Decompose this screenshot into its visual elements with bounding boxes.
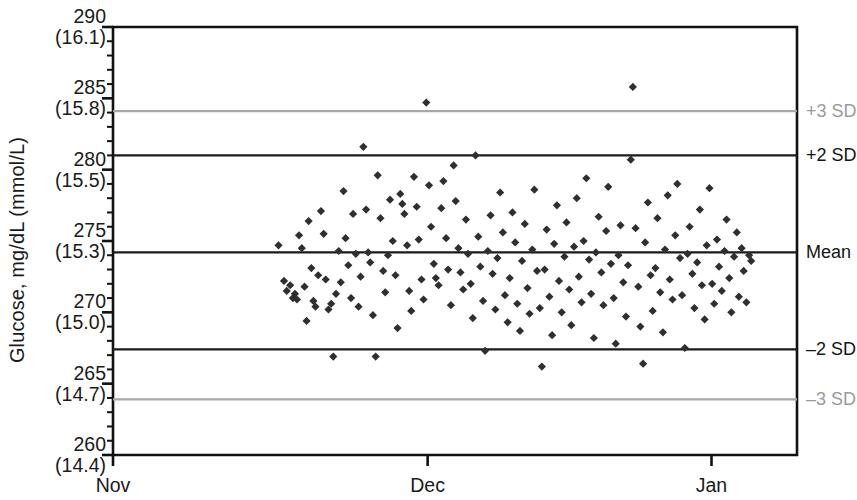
plot-area — [0, 0, 857, 500]
y-axis-ticks — [102, 27, 113, 455]
reference-lines — [113, 111, 797, 399]
glucose-control-chart: Glucose, mg/dL (mmol/L) 290(16.1)285(15.… — [0, 0, 857, 500]
axis-frame — [113, 27, 797, 455]
x-axis-ticks — [113, 455, 712, 466]
data-point-series — [274, 83, 755, 371]
